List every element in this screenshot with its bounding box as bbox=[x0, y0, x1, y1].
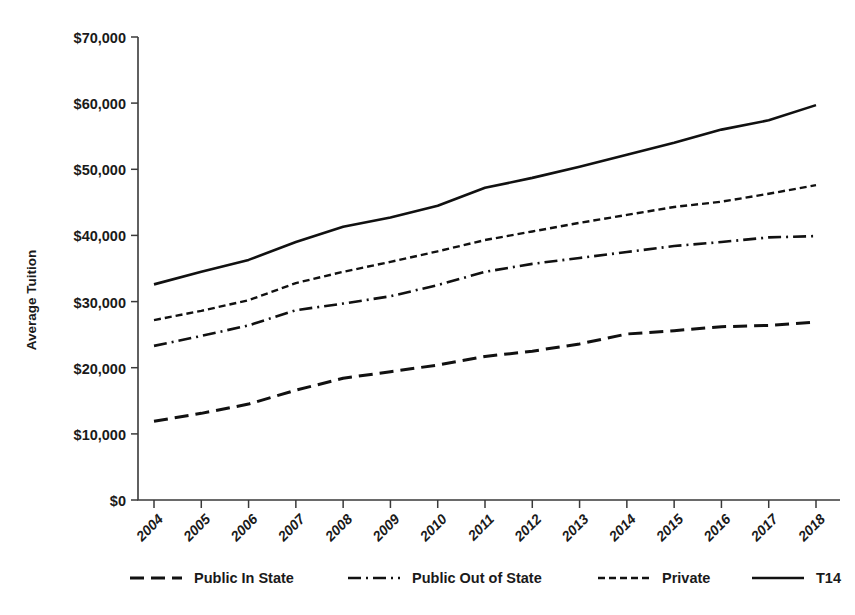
legend-label: T14 bbox=[816, 570, 841, 586]
y-tick-label: $50,000 bbox=[74, 162, 126, 178]
y-tick-label: $70,000 bbox=[74, 30, 126, 46]
y-tick-label: $20,000 bbox=[74, 361, 126, 377]
y-tick-label: $10,000 bbox=[74, 427, 126, 443]
y-tick-label: $30,000 bbox=[74, 295, 126, 311]
y-tick-label: $40,000 bbox=[74, 228, 126, 244]
legend-label: Public In State bbox=[194, 570, 294, 586]
y-axis-title: Average Tuition bbox=[24, 250, 39, 351]
legend-label: Public Out of State bbox=[412, 570, 542, 586]
y-tick-label: $60,000 bbox=[74, 96, 126, 112]
y-tick-label: $0 bbox=[110, 493, 126, 509]
chart-canvas: Average Tuition $70,000 $60,000 $50,000 … bbox=[0, 0, 855, 615]
tuition-line-chart: Average Tuition $70,000 $60,000 $50,000 … bbox=[0, 0, 855, 615]
legend-label: Private bbox=[662, 570, 710, 586]
